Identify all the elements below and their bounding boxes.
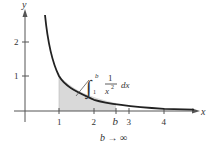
fraction-denominator-exponent: 2 [111,84,114,90]
x-tick-b: b [113,115,119,127]
integral-upper-limit: b [95,72,99,80]
y-axis-label: y [21,0,27,10]
fraction-denominator-base: x [104,86,109,96]
integral-lower-limit: 1 [93,89,96,95]
differential: dx [121,80,130,90]
x-tick-3: 3 [127,117,132,127]
fraction-numerator: 1 [108,73,113,83]
x-tick-1: 1 [57,117,62,127]
y-axis-arrow-icon [23,9,28,17]
y-tick-1: 1 [14,71,19,81]
improper-integral-diagram: x y 1 2 b 3 4 1 2 ∫ b 1 1 x 2 dx b → ∞ [0,0,221,155]
x-tick-2: 2 [92,117,97,127]
x-axis-label: x [200,106,206,117]
y-tick-2: 2 [14,37,19,47]
integral-expression: ∫ b 1 1 x 2 dx [84,72,130,100]
x-tick-4: 4 [162,117,167,127]
limit-caption: b → ∞ [100,132,127,143]
